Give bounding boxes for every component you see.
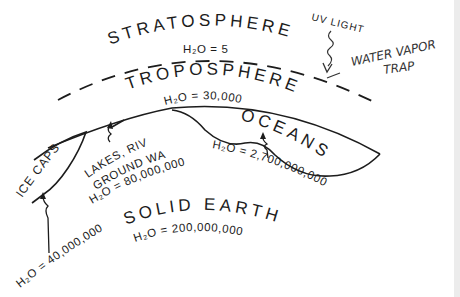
solid-earth-water-value: H₂O = 200,000,000: [132, 221, 244, 244]
troposphere-water-value: H₂O = 30,000: [163, 89, 244, 107]
trap-label: TRAP: [382, 59, 416, 77]
ice-caps-pointer-arrow: [43, 196, 49, 253]
uv-light-squiggle-arrow: [328, 31, 334, 66]
stratosphere-water-value: H₂O = 5: [183, 43, 228, 55]
ice-caps-label: ICE CAPS: [13, 140, 63, 199]
water-distribution-diagram: STRATOSPHERE H₂O = 5 TROPOSPHERE H₂O = 3…: [0, 0, 460, 297]
oceans-arrowhead-icon: [260, 132, 266, 139]
uv-light-label: UV LIGHT: [311, 11, 366, 35]
ice-caps-water-value: H₂O = 40,000,000: [14, 221, 105, 289]
water-vapor-trap-pointer: [327, 73, 340, 78]
uv-arrowhead-icon: [323, 63, 332, 72]
